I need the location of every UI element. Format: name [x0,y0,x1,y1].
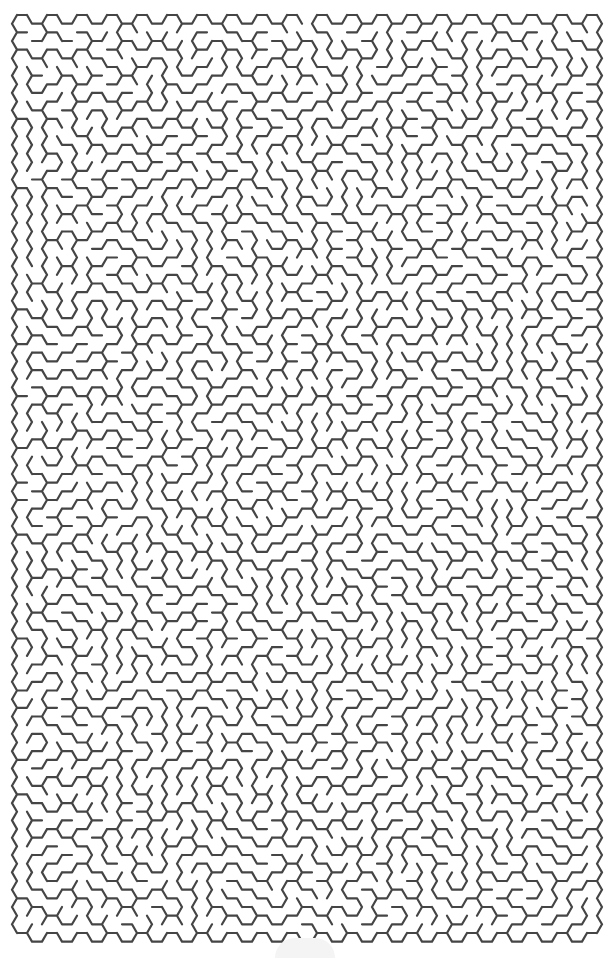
bottom-marker [275,938,335,958]
maze-wall-path [12,15,602,942]
maze-walls [12,15,602,942]
